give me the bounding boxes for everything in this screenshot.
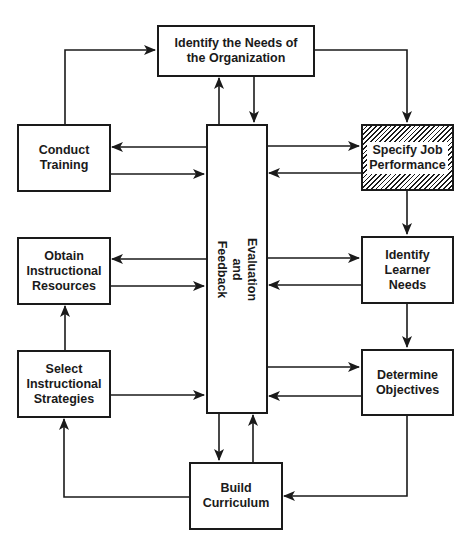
node-identify-needs-organization: Identify the Needs of the Organization: [157, 25, 315, 77]
node-evaluation-feedback: Evaluation and Feedback: [206, 124, 268, 414]
node-label: Build Curriculum: [203, 481, 270, 511]
node-label: Identify the Needs of the Organization: [175, 36, 298, 66]
node-identify-learner-needs: Identify Learner Needs: [361, 236, 454, 304]
node-select-instructional-strategies: Select Instructional Strategies: [17, 350, 111, 418]
node-obtain-instructional-resources: Obtain Instructional Resources: [17, 237, 111, 305]
node-conduct-training: Conduct Training: [17, 124, 111, 192]
node-specify-job-performance: Specify Job Performance: [361, 124, 454, 191]
node-determine-objectives: Determine Objectives: [361, 349, 454, 416]
node-label: Conduct Training: [39, 143, 90, 173]
node-label: Select Instructional Strategies: [26, 362, 101, 407]
node-label: Obtain Instructional Resources: [26, 249, 101, 294]
node-label: Determine Objectives: [376, 368, 439, 398]
node-label: Specify Job Performance: [367, 142, 447, 174]
node-label: Evaluation and Feedback: [215, 237, 260, 300]
node-label: Identify Learner Needs: [385, 248, 431, 293]
node-build-curriculum: Build Curriculum: [189, 462, 283, 530]
